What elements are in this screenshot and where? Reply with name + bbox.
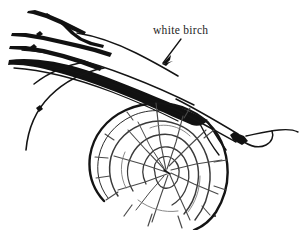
callout-arrow	[162, 39, 181, 66]
branch-behind-log-right-2	[200, 124, 219, 155]
illustration-canvas	[0, 0, 302, 230]
crack	[136, 176, 164, 210]
log-cross-section	[90, 103, 228, 230]
crack	[148, 214, 152, 226]
log-speck	[214, 215, 216, 217]
crack	[178, 216, 182, 228]
faint-arc	[121, 152, 126, 188]
faint-arc	[138, 200, 178, 212]
branch-twig-arc-upper	[77, 33, 178, 76]
crack	[214, 186, 226, 190]
birch-illustration-figure: white birch	[0, 0, 302, 230]
arrow-shaft	[163, 39, 181, 63]
crack	[95, 157, 108, 158]
birch-branch-cluster	[8, 10, 298, 155]
crack	[202, 206, 210, 215]
crack	[106, 192, 118, 200]
crack	[152, 175, 168, 222]
crack	[124, 205, 132, 216]
crack	[170, 175, 190, 220]
crack	[171, 173, 218, 194]
log-growth-ring-3	[143, 147, 189, 205]
log-growth-ring-2	[128, 134, 199, 214]
branch-twig-top	[27, 10, 86, 35]
log-radial-cracks	[114, 112, 222, 222]
